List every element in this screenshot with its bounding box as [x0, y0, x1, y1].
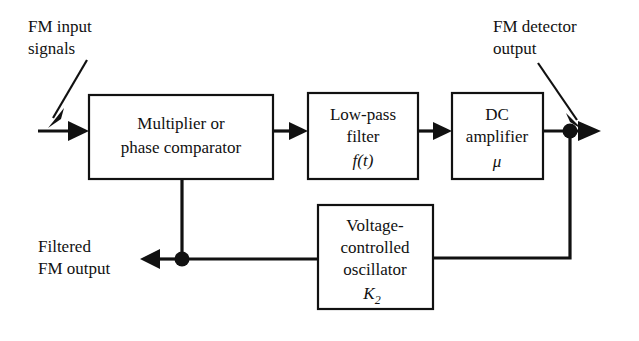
- block-multiplier-line-1: Multiplier or: [137, 114, 225, 133]
- wire-fm-input: [38, 121, 89, 141]
- annotation-filtered-fm-output: Filtered FM output: [38, 237, 111, 278]
- block-dc-amplifier-line-2: amplifier: [466, 127, 529, 146]
- block-multiplier-line-2: phase comparator: [121, 138, 242, 157]
- wire-filter-to-amplifier: [418, 122, 452, 140]
- annotation-fm-detector-output: FM detector output: [493, 17, 577, 58]
- annotation-filtered-fm-output-line-2: FM output: [38, 259, 111, 278]
- block-lowpass-filter-line-1: Low-pass: [330, 105, 396, 124]
- annotation-fm-input-line-2: signals: [28, 39, 75, 58]
- wire-vco-to-multiplier: [182, 179, 318, 259]
- annotation-fm-input: FM input signals: [28, 17, 92, 58]
- block-vco[interactable]: Voltage- controlled oscillator K2: [318, 205, 433, 309]
- block-lowpass-filter-line-2: filter: [346, 127, 379, 146]
- block-vco-math-sub: 2: [375, 293, 381, 307]
- block-lowpass-filter[interactable]: Low-pass filter f(t): [308, 93, 418, 179]
- annotation-fm-detector-output-line-2: output: [493, 39, 537, 58]
- pointer-fm-input: [48, 60, 87, 128]
- annotation-filtered-fm-output-line-1: Filtered: [38, 237, 91, 256]
- block-multiplier[interactable]: Multiplier or phase comparator: [89, 95, 273, 179]
- block-dc-amplifier[interactable]: DC amplifier μ: [452, 93, 543, 179]
- junction-dot-filtered-output: [175, 252, 190, 267]
- pointer-fm-detector-output: [538, 63, 583, 130]
- annotation-fm-detector-output-line-1: FM detector: [493, 17, 577, 36]
- annotation-fm-input-line-1: FM input: [28, 17, 92, 36]
- block-diagram: Multiplier or phase comparator Low-pass …: [0, 0, 639, 341]
- block-dc-amplifier-math: μ: [492, 152, 502, 171]
- block-vco-line-1: Voltage-: [346, 216, 404, 235]
- wire-multiplier-to-filter: [273, 122, 308, 140]
- block-vco-line-2: controlled: [341, 238, 410, 257]
- block-lowpass-filter-math: f(t): [353, 151, 374, 170]
- junction-dot-detector-output: [563, 124, 578, 139]
- block-vco-line-3: oscillator: [343, 260, 407, 279]
- diagram-canvas: Multiplier or phase comparator Low-pass …: [0, 0, 639, 341]
- block-dc-amplifier-line-1: DC: [485, 105, 509, 124]
